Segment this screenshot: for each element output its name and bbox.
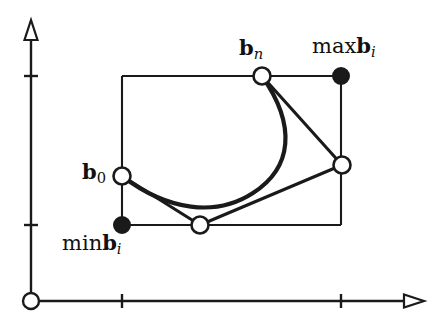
extreme-point-markers-group	[114, 68, 349, 233]
control-point-bn-marker	[254, 68, 271, 85]
label-b-0-base: b	[82, 159, 97, 184]
bezier-bounding-box-figure: bn maxbi b0 minbi	[0, 0, 443, 328]
control-point-b2-marker	[334, 157, 351, 174]
x-axis-arrowhead-icon	[404, 295, 424, 308]
label-max-operator: max	[312, 34, 356, 58]
label-max-b-i-base: b	[356, 33, 371, 58]
label-max-b-i-subscript: i	[371, 43, 376, 60]
bezier-curve-group	[122, 76, 285, 207]
label-b-n-base: b	[239, 35, 254, 60]
control-point-b1-marker	[192, 217, 209, 234]
origin-marker	[23, 293, 39, 309]
label-min-b-i: minbi	[62, 232, 122, 257]
label-b-0-subscript: 0	[97, 169, 106, 186]
label-max-b-i: maxbi	[312, 35, 376, 60]
control-point-b0-marker	[114, 168, 131, 185]
label-b-0: b0	[82, 161, 106, 186]
label-min-b-i-base: b	[102, 230, 117, 255]
max-point-marker	[333, 68, 349, 84]
bezier-curve-path	[122, 76, 285, 207]
figure-canvas	[0, 0, 443, 328]
y-axis-arrowhead-icon	[25, 20, 38, 40]
control-point-markers-group	[114, 68, 351, 234]
label-b-n: bn	[239, 37, 263, 62]
label-min-operator: min	[62, 231, 102, 255]
label-min-b-i-subscript: i	[117, 240, 122, 257]
label-b-n-subscript: n	[254, 45, 263, 62]
